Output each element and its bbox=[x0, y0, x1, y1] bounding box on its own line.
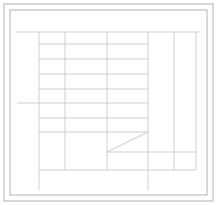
paper-background bbox=[0, 0, 217, 205]
drawing-canvas bbox=[0, 0, 217, 205]
line-drawing-figure bbox=[0, 0, 217, 205]
